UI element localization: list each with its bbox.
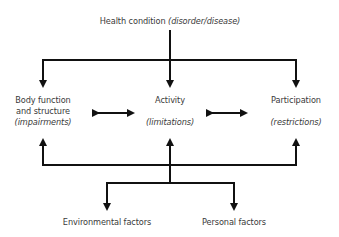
body-function-line2: and structure (15, 106, 72, 117)
participation-node: Participation (restrictions) (271, 95, 322, 128)
activity-node: Activity (limitations) (146, 95, 194, 128)
contextual-branch-line (107, 183, 234, 207)
environmental-factors-label: Environmental factors (63, 217, 151, 228)
health-condition-text: Health condition (100, 16, 166, 26)
participation-label: Participation (271, 95, 322, 106)
personal-factors-label: Personal factors (202, 217, 266, 228)
activity-label: Activity (146, 95, 194, 106)
activity-qualifier: (limitations) (146, 117, 194, 128)
body-function-node: Body function and structure (impairments… (15, 95, 72, 128)
participation-qualifier: (restrictions) (271, 117, 322, 128)
body-function-qualifier: (impairments) (15, 117, 72, 128)
health-condition-qualifier: (disorder/disease) (168, 16, 240, 26)
body-function-line1: Body function (15, 95, 72, 106)
health-condition-label: Health condition (disorder/disease) (100, 16, 240, 27)
